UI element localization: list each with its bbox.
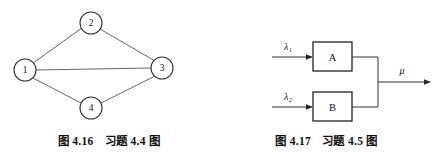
input-flow-lambda-1: λ₁ xyxy=(272,41,312,57)
graph-node-2[interactable]: 2 xyxy=(80,12,102,34)
node-label-3: 3 xyxy=(160,63,165,73)
graph-diagram-svg: 1 2 3 4 xyxy=(0,0,218,128)
graph-edges xyxy=(33,28,155,103)
figure-caption-4-17: 图 4.17 习题 4.5 图 xyxy=(218,128,435,152)
merge-path-from-b xyxy=(352,82,378,107)
lambda-1-label: λ₁ xyxy=(283,41,292,52)
graph-node-3[interactable]: 3 xyxy=(151,57,173,79)
block-diagram-canvas: λ₁ λ₂ A B xyxy=(218,0,435,128)
figure-4-17: λ₁ λ₂ A B xyxy=(218,0,435,152)
merge-path-from-a xyxy=(352,57,378,82)
edge-1-4 xyxy=(33,78,81,103)
block-a[interactable]: A xyxy=(313,42,352,71)
lambda-2-label: λ₂ xyxy=(283,91,292,102)
edge-2-3 xyxy=(100,29,155,61)
graph-node-4[interactable]: 4 xyxy=(80,97,102,119)
block-b-label: B xyxy=(329,102,336,113)
figure-title: 习题 4.4 图 xyxy=(105,132,161,148)
node-label-1: 1 xyxy=(23,65,28,75)
input-flow-lambda-2: λ₂ xyxy=(272,91,312,107)
figure-number: 图 4.16 xyxy=(58,132,94,148)
figure-number: 图 4.17 xyxy=(275,132,311,148)
output-flow-mu: μ xyxy=(378,65,430,82)
node-label-4: 4 xyxy=(89,103,94,113)
figure-caption-4-16: 图 4.16 习题 4.4 图 xyxy=(0,128,218,152)
node-label-2: 2 xyxy=(89,18,94,28)
graph-nodes: 1 2 3 4 xyxy=(14,12,173,119)
edge-1-3 xyxy=(36,68,151,70)
output-merge-paths xyxy=(352,57,378,107)
figure-4-16: 1 2 3 4 图 4.16 xyxy=(0,0,218,152)
block-a-label: A xyxy=(329,52,337,63)
block-diagram-svg: λ₁ λ₂ A B xyxy=(218,0,435,128)
graph-diagram-canvas: 1 2 3 4 xyxy=(0,0,218,128)
figure-title: 习题 4.5 图 xyxy=(322,132,378,148)
edge-4-3 xyxy=(101,76,155,103)
block-b[interactable]: B xyxy=(313,92,352,121)
mu-label: μ xyxy=(398,65,404,76)
edge-1-2 xyxy=(33,28,82,63)
figure-page: 1 2 3 4 图 4.16 xyxy=(0,0,435,152)
graph-node-1[interactable]: 1 xyxy=(14,59,36,81)
